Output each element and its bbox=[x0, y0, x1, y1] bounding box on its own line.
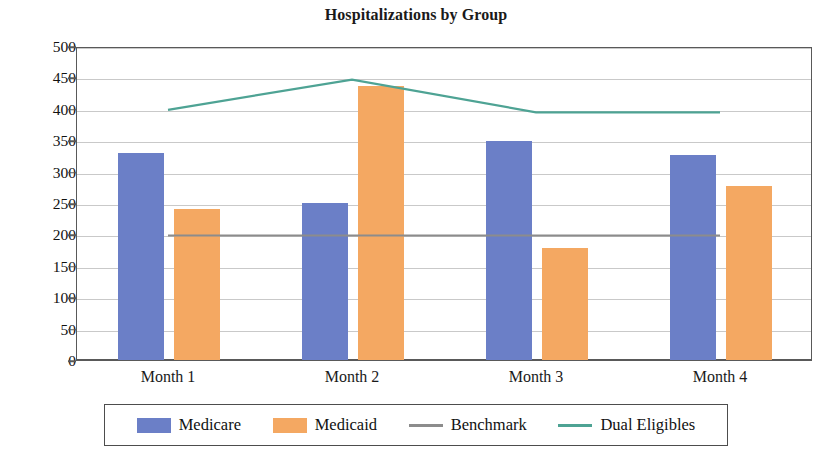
plot-area bbox=[76, 47, 812, 361]
legend-item-dual-eligibles[interactable]: Dual Eligibles bbox=[558, 415, 695, 435]
y-axis-tick-mark bbox=[68, 78, 76, 80]
legend-item-medicaid[interactable]: Medicaid bbox=[273, 415, 377, 435]
legend-label: Medicaid bbox=[315, 415, 377, 435]
bar-medicare-month-2 bbox=[302, 203, 348, 360]
y-axis-tick-mark bbox=[68, 297, 76, 299]
y-axis-tick-label: 150 bbox=[12, 259, 76, 275]
chart-title: Hospitalizations by Group bbox=[0, 6, 832, 24]
x-axis-tick-label: Month 2 bbox=[325, 368, 380, 386]
y-axis-tick-mark bbox=[68, 109, 76, 111]
legend-item-benchmark[interactable]: Benchmark bbox=[409, 415, 527, 435]
y-axis-tick-label: 100 bbox=[12, 290, 76, 306]
legend-item-medicare[interactable]: Medicare bbox=[137, 415, 241, 435]
y-axis-tick-mark bbox=[68, 266, 76, 268]
y-axis-tick-mark bbox=[68, 46, 76, 48]
bar-medicaid-month-3 bbox=[542, 248, 588, 360]
y-axis-tick-label: 50 bbox=[12, 322, 76, 338]
y-axis-tick-mark bbox=[68, 235, 76, 237]
y-axis-tick-label: 250 bbox=[12, 196, 76, 212]
y-axis-tick-mark bbox=[68, 203, 76, 205]
y-axis-tick-mark bbox=[68, 360, 76, 362]
bar-medicare-month-1 bbox=[118, 153, 164, 360]
y-axis-tick-label: 500 bbox=[12, 39, 76, 55]
y-axis-tick-label: 350 bbox=[12, 133, 76, 149]
chart-container: Hospitalizations by Group 05010015020025… bbox=[0, 0, 832, 473]
bar-medicaid-month-2 bbox=[358, 86, 404, 360]
gridline bbox=[77, 48, 811, 49]
bar-medicare-month-3 bbox=[486, 141, 532, 360]
y-axis-tick-label: 300 bbox=[12, 165, 76, 181]
bar-medicaid-month-4 bbox=[726, 186, 772, 360]
y-axis-tick-mark bbox=[68, 140, 76, 142]
legend-swatch-bar-icon bbox=[273, 418, 307, 433]
x-axis-tick-label: Month 1 bbox=[141, 368, 196, 386]
chart-legend: MedicareMedicaidBenchmarkDual Eligibles bbox=[104, 404, 728, 446]
bar-medicare-month-4 bbox=[670, 155, 716, 360]
y-axis-tick-label: 450 bbox=[12, 71, 76, 87]
gridline bbox=[77, 142, 811, 143]
legend-swatch-line-icon bbox=[558, 424, 592, 427]
gridline bbox=[77, 111, 811, 112]
gridline bbox=[77, 79, 811, 80]
legend-label: Benchmark bbox=[451, 415, 527, 435]
x-axis-tick-label: Month 4 bbox=[693, 368, 748, 386]
y-axis-tick-label: 200 bbox=[12, 228, 76, 244]
y-axis: 050100150200250300350400450500 bbox=[0, 0, 76, 473]
legend-swatch-line-icon bbox=[409, 424, 443, 427]
legend-label: Dual Eligibles bbox=[600, 415, 695, 435]
y-axis-tick-label: 0 bbox=[12, 353, 76, 369]
y-axis-tick-mark bbox=[68, 329, 76, 331]
x-axis-tick-label: Month 3 bbox=[509, 368, 564, 386]
legend-label: Medicare bbox=[179, 415, 241, 435]
bar-medicaid-month-1 bbox=[174, 209, 220, 360]
y-axis-tick-mark bbox=[68, 172, 76, 174]
legend-swatch-bar-icon bbox=[137, 418, 171, 433]
y-axis-tick-label: 400 bbox=[12, 102, 76, 118]
